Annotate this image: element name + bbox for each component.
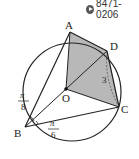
- angle-OBC-denominator: 6: [51, 130, 56, 140]
- geometry-figure: 8471-0206 A D C B O 3 π 8 π 6: [0, 0, 139, 159]
- segment-AB: [25, 32, 70, 127]
- problem-code-text: 8471-0206: [96, 0, 139, 20]
- angle-arc-OBC: [36, 121, 38, 124]
- center-point-O: [64, 87, 68, 91]
- label-A: A: [65, 19, 73, 31]
- label-O: O: [62, 92, 70, 104]
- label-length-DC: 3: [102, 75, 107, 85]
- problem-code-badge: 8471-0206: [86, 3, 139, 15]
- label-C: C: [121, 103, 128, 115]
- segment-BC: [25, 107, 119, 127]
- angle-OBC-numerator: π: [50, 118, 55, 128]
- circle-diagram: A D C B O 3 π 8 π 6: [0, 0, 139, 159]
- angle-ABO-numerator: π: [20, 90, 25, 100]
- label-D: D: [110, 40, 118, 52]
- play-circle-icon: [86, 5, 94, 14]
- label-B: B: [14, 127, 21, 139]
- angle-ABO-denominator: 8: [21, 102, 26, 112]
